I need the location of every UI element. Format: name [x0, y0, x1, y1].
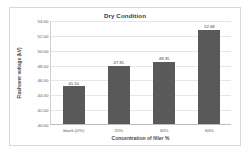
bar-slot: 45.10 [51, 21, 96, 124]
y-axis-tick-label: 50.00 [38, 48, 49, 53]
y-axis-tick-label: 54.00 [38, 19, 49, 24]
bar[interactable] [63, 86, 85, 124]
x-axis-title: Concentration of filler % [50, 135, 231, 141]
bar-slot: 52.68 [187, 21, 232, 124]
x-axis-tick-label: 20% [114, 128, 123, 133]
x-axis-tick-label: blank (0%) [63, 128, 84, 133]
y-axis-tick-label: 48.00 [38, 63, 49, 68]
y-axis-title: Flashover voltage (kV) [17, 47, 22, 98]
bar[interactable] [153, 62, 175, 124]
bar-value-label: 48.35 [159, 56, 170, 61]
bar-value-label: 45.10 [68, 81, 79, 86]
bar-slot: 48.35 [142, 21, 187, 124]
x-axis-tick-label: 40% [160, 128, 169, 133]
bar[interactable] [198, 30, 220, 124]
bar-value-label: 47.81 [113, 60, 124, 65]
plot-area: 54.0052.0050.0048.0046.0044.0042.0040.00… [50, 21, 231, 125]
chart-container: Dry Condition Flashover voltage (kV) 54.… [9, 7, 241, 146]
y-axis-tick-label: 40.00 [38, 123, 49, 128]
y-axis-tick-label: 44.00 [38, 93, 49, 98]
y-axis-tick-label: 52.00 [38, 33, 49, 38]
bar-series: 45.1047.8148.3552.68 [51, 21, 231, 124]
x-axis-tick-label: 60% [205, 128, 214, 133]
y-axis-tick-label: 42.00 [38, 108, 49, 113]
bar-slot: 47.81 [96, 21, 141, 124]
y-axis-tick-label: 46.00 [38, 78, 49, 83]
bar-value-label: 52.68 [204, 24, 215, 29]
bar[interactable] [108, 66, 130, 124]
